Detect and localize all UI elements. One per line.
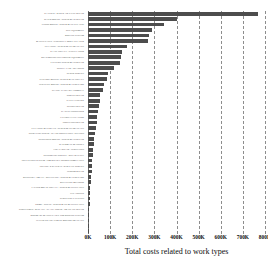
x-tick-label: 100K [104, 235, 116, 240]
bar-row [88, 61, 265, 65]
bar [88, 170, 92, 174]
category-label: RECOVERY - SMALL - RECYCLING - SEWER MAI… [23, 176, 84, 178]
bar [88, 88, 103, 92]
bar [88, 55, 121, 59]
bar [88, 142, 94, 146]
bar [88, 121, 97, 125]
bar-row [88, 83, 265, 87]
bar-row [88, 45, 265, 49]
bar [88, 132, 95, 136]
category-label: SAFETY CHECKS [66, 99, 84, 101]
bar [88, 148, 93, 152]
gridline [265, 11, 266, 234]
bar-row [88, 213, 265, 217]
bar-row [88, 159, 265, 163]
bar-row [88, 175, 265, 179]
bar-row [88, 197, 265, 201]
bar [88, 153, 93, 157]
bar [88, 159, 92, 163]
category-label: SUPPLY TANK - REASSESS [57, 67, 84, 69]
bar [88, 72, 108, 76]
category-label: CLEANING - SEWER MAIN DRAINAGE [45, 45, 84, 47]
bar-row [88, 72, 265, 76]
category-label: ROAD BOUND UNIT DRIVER EQUIPMENT [41, 56, 84, 58]
bar [88, 50, 122, 54]
x-tick-label: 300K [148, 235, 160, 240]
category-label: STRUCTURES - REPLACE - PLANT TOWER - DRA… [19, 208, 84, 210]
bar-row [88, 142, 265, 146]
category-label: TOP UPS - 2 WATER LEAKER PAVE SERVICE [40, 165, 84, 167]
bar-row [88, 50, 265, 54]
bar [88, 213, 89, 217]
bar [88, 77, 107, 81]
bar-row [88, 99, 265, 103]
bar-row [88, 34, 265, 38]
category-label: INJECTIVE BOUND - SEWER MAIN REPAIRS [39, 83, 84, 85]
bar [88, 61, 120, 65]
bar [88, 137, 94, 141]
category-label: LETTER UK LOCATOR OF BOUNDS DRAINAGE [36, 219, 84, 221]
bar-row [88, 115, 265, 119]
bar-chart: PLANNED - SEWER AIR VALVE REPAIRWATER BO… [0, 0, 268, 265]
bar [88, 197, 90, 201]
bar-row [88, 88, 265, 92]
bar-row [88, 39, 265, 43]
category-label: INSPECTION REPAIR [63, 121, 84, 123]
bar-row [88, 110, 265, 114]
bar [88, 104, 99, 108]
category-label: RECYCLING METHODS [60, 181, 84, 183]
bar-row [88, 202, 265, 206]
plot-area [88, 11, 265, 234]
category-label: ROSEMARY MAINTENANCE FOR ROOFING SYSTEM [30, 214, 84, 216]
category-label: PRIME - DUCTS - SEWER MAIN MAINTENANCE [35, 203, 84, 205]
x-axis-title: Total costs related to work types [88, 248, 265, 257]
bar [88, 23, 164, 27]
category-label: CLEANSINGS [70, 192, 84, 194]
bar-series [88, 11, 265, 234]
bar [88, 164, 92, 168]
category-label: STRUCTURAL CEILING [60, 197, 84, 199]
bar [88, 34, 149, 38]
category-label: STAND - SANITARY TERMINAL [52, 89, 84, 91]
category-label: SERVICE REPAIR [67, 94, 84, 96]
category-label: SUSPENDED BOUND - SEWER MAIN REPAIR [39, 138, 84, 140]
bar-row [88, 55, 265, 59]
category-label: WATERMAIN MANHOLE [59, 143, 84, 145]
bar [88, 180, 91, 184]
bar [88, 229, 89, 233]
bar-row [88, 180, 265, 184]
bar-row [88, 148, 265, 152]
category-label: MAINTENANCE AUDITIONAL BODY CLEANER [36, 40, 84, 42]
category-label: SLUDGE REPAIR [67, 105, 84, 107]
bar [88, 186, 90, 190]
bar-row [88, 17, 265, 21]
bar [88, 45, 127, 49]
category-label: COLLECTION SYSTEM - EMERGENCY WORKS COMP… [22, 159, 84, 161]
bar-row [88, 224, 265, 228]
bar [88, 219, 89, 223]
category-label: FACTOR BREAK INSTALL - SEWER MAINTENANCE [32, 186, 84, 188]
bar [88, 28, 152, 32]
x-tick-label: 700K [237, 235, 249, 240]
bar-row [88, 137, 265, 141]
bar-row [88, 153, 265, 157]
category-label: OPERATING SEWER - STAND PROTECTION - SEC… [29, 132, 84, 134]
category-label: EXTERNAL CLEANERS [60, 116, 84, 118]
bar [88, 202, 90, 206]
category-axis-labels: PLANNED - SEWER AIR VALVE REPAIRWATER BO… [0, 11, 86, 234]
x-tick-label: 400K [170, 235, 182, 240]
bar [88, 66, 114, 70]
bar-row [88, 93, 265, 97]
category-label: WATER BOUND - SEWER MAIN REPAIR [44, 18, 84, 20]
category-label: PLASTIC CONDENSER [61, 110, 84, 112]
bar [88, 110, 98, 114]
bar-row [88, 104, 265, 108]
category-label: ELECTRIC BOUND - SEWER MAIN INSTALL [39, 78, 84, 80]
bar-row [88, 170, 265, 174]
category-label: SITE EQUIPMENT [66, 29, 84, 31]
x-axis-ticks: 0K100K200K300K400K500K600K700K800K [88, 234, 265, 246]
bar-row [88, 229, 265, 233]
x-tick-label: 800K [259, 235, 268, 240]
category-label: ROUTINE SYSTEM [65, 34, 84, 36]
bar-row [88, 191, 265, 195]
